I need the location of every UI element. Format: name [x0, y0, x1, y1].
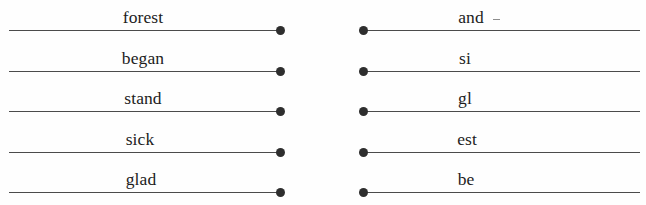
word-label: si — [459, 49, 471, 68]
line-end-dot-icon — [276, 107, 285, 116]
line-start-dot-icon — [359, 148, 368, 157]
line-start-dot-icon — [359, 107, 368, 116]
worksheet-canvas: forest began stand sick glad and — [0, 0, 646, 205]
word-label: gl — [458, 89, 472, 108]
writing-rule-line — [363, 30, 640, 31]
writing-rule-line — [363, 192, 640, 193]
word-label: est — [457, 130, 477, 149]
writing-rule-line — [9, 111, 281, 112]
word-label: sick — [126, 130, 155, 149]
line-start-dot-icon — [359, 67, 368, 76]
line-end-dot-icon — [276, 67, 285, 76]
word-label: forest — [123, 8, 163, 27]
line-end-dot-icon — [276, 26, 285, 35]
line-start-dot-icon — [359, 188, 368, 197]
writing-rule-line — [9, 71, 281, 72]
word-label: began — [122, 49, 164, 68]
writing-rule-line — [363, 111, 640, 112]
word-label: glad — [126, 170, 157, 189]
writing-rule-line — [363, 71, 640, 72]
line-end-dot-icon — [276, 188, 285, 197]
writing-rule-line — [9, 30, 281, 31]
hyphen-mark-icon — [493, 19, 500, 20]
line-end-dot-icon — [276, 148, 285, 157]
writing-rule-line — [9, 192, 281, 193]
line-start-dot-icon — [359, 26, 368, 35]
word-label: stand — [124, 89, 161, 108]
writing-rule-line — [363, 152, 640, 153]
writing-rule-line — [9, 152, 281, 153]
word-label: be — [458, 170, 475, 189]
word-label: and — [458, 8, 484, 27]
